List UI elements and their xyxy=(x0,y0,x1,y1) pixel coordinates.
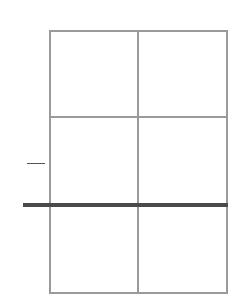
grid-top-border xyxy=(49,30,228,32)
grid-row-divider-1 xyxy=(49,116,228,118)
side-marker-dash xyxy=(27,163,45,164)
highlighted-row-divider xyxy=(23,203,228,207)
grid-right-border xyxy=(226,30,228,294)
grid-left-border xyxy=(49,30,51,294)
grid-bottom-border xyxy=(49,292,228,294)
grid-center-divider xyxy=(137,30,139,294)
